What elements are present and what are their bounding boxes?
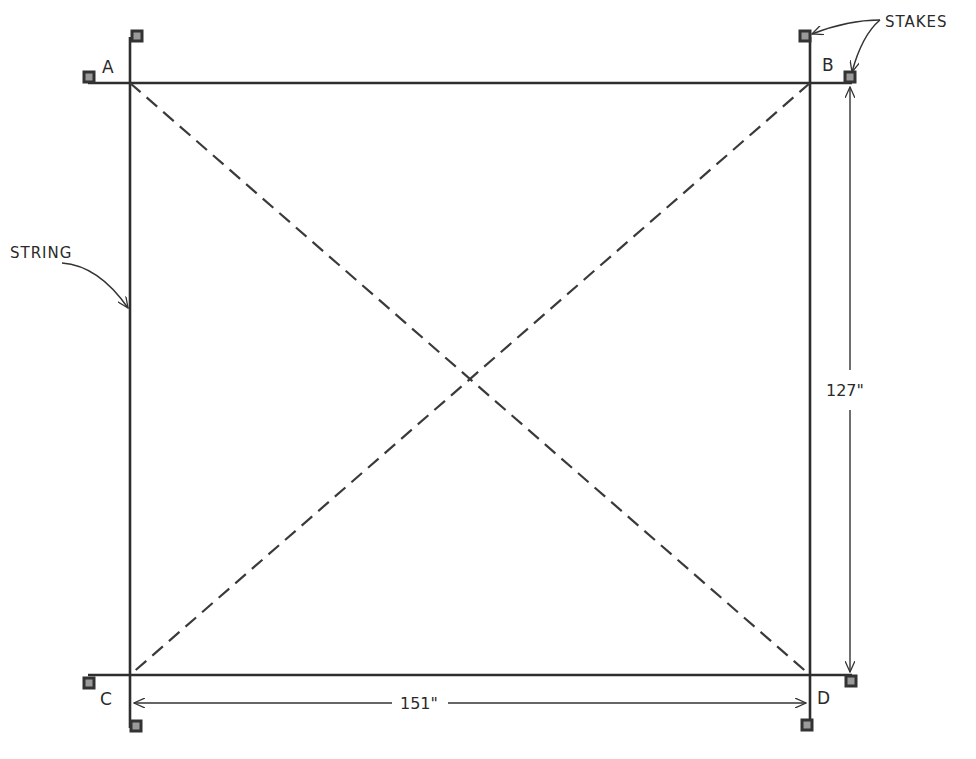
stake-icon xyxy=(84,678,94,688)
leaders xyxy=(62,20,880,308)
stakes xyxy=(84,31,856,731)
diagonals xyxy=(130,83,810,675)
stakes-leader-2 xyxy=(852,20,880,72)
stake-icon xyxy=(131,721,141,731)
corner-label-c: C xyxy=(100,689,112,709)
corner-label-b: B xyxy=(822,55,834,75)
stake-icon xyxy=(845,72,855,82)
stake-icon xyxy=(800,31,810,41)
string-leader xyxy=(62,263,128,308)
stake-icon xyxy=(132,31,142,41)
corner-label-d: D xyxy=(817,688,830,708)
stakes-label: STAKES xyxy=(885,13,948,31)
string-lines xyxy=(88,37,852,728)
height-dimension-label: 127" xyxy=(826,381,864,400)
corner-label-a: A xyxy=(102,57,114,77)
stake-icon xyxy=(802,720,812,730)
stake-icon xyxy=(846,676,856,686)
string-label: STRING xyxy=(10,244,72,262)
stake-icon xyxy=(84,72,94,82)
width-dimension-label: 151" xyxy=(400,694,438,713)
stakeout-diagram: A B C D STAKES STRING 127" 151" xyxy=(0,0,976,759)
